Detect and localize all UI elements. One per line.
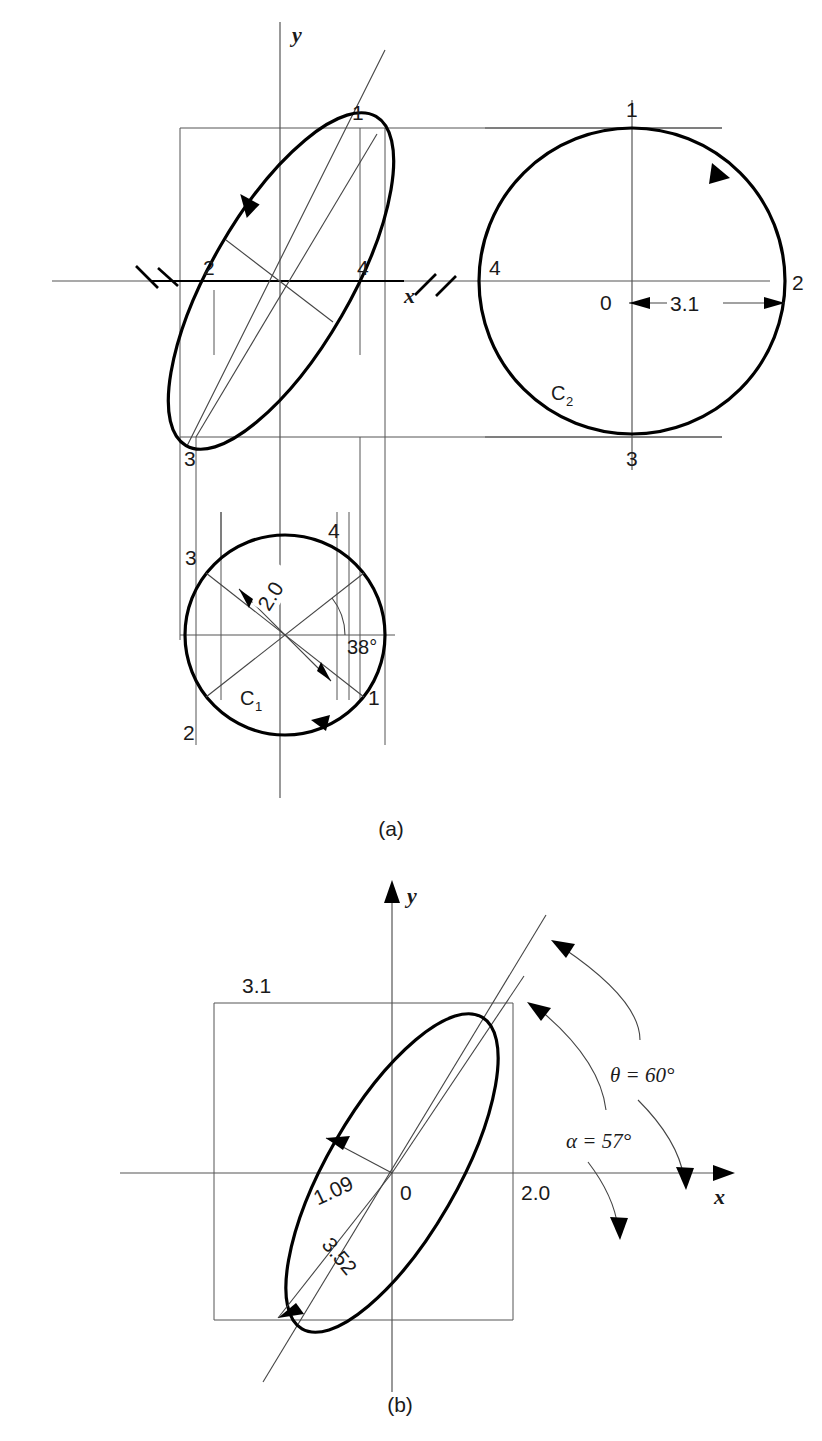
ellipse-b — [246, 915, 546, 1382]
svg-text:C: C — [240, 687, 254, 709]
c2-dimension-3.1: 3.1 — [629, 291, 785, 315]
c1-name-label: C 1 — [240, 687, 262, 714]
circle-c1 — [180, 535, 395, 735]
ellipse-direction-arrow-a — [232, 194, 260, 220]
c2-dimension-text: 3.1 — [670, 292, 699, 315]
circle-c2 — [479, 100, 785, 470]
circle-c2-direction-arrow — [709, 163, 730, 184]
box-right-dimension-b: 2.0 — [521, 1181, 550, 1204]
c2-point-3: 3 — [626, 447, 638, 470]
svg-text:2: 2 — [566, 394, 573, 409]
c2-point-4: 4 — [489, 256, 501, 279]
panel-a: x y 1 2 3 4 1 2 3 — [52, 22, 804, 840]
svg-text:1: 1 — [255, 699, 262, 714]
y-axis-label-a: y — [289, 22, 302, 47]
box-top-dimension-b: 3.1 — [242, 974, 271, 997]
caption-b: (b) — [387, 1393, 413, 1416]
panel-b: x y 0 3.1 2.0 1.09 — [120, 880, 735, 1416]
ellipse-a — [125, 50, 436, 481]
figure-canvas: x y 1 2 3 4 1 2 3 — [0, 0, 822, 1441]
ellipse-point-2-a: 2 — [203, 256, 215, 279]
svg-text:C: C — [551, 382, 565, 404]
x-axis-b — [120, 1165, 735, 1181]
y-axis-b — [384, 880, 400, 1392]
c1-point-3: 3 — [185, 546, 197, 569]
technical-drawing-svg: x y 1 2 3 4 1 2 3 — [0, 0, 822, 1441]
c1-point-2: 2 — [183, 721, 195, 744]
x-axis-label-a: x — [403, 283, 415, 308]
angle-theta-label-b: θ = 60° — [610, 1063, 675, 1087]
c2-point-1: 1 — [626, 98, 638, 121]
y-axis-label-b: y — [404, 883, 417, 908]
angle-alpha-label-b: α = 57° — [566, 1129, 632, 1153]
c2-point-2: 2 — [792, 271, 804, 294]
angle-alpha-b — [527, 1002, 628, 1240]
bounding-box-b — [214, 1003, 513, 1320]
c1-point-1: 1 — [368, 686, 380, 709]
c1-point-4: 4 — [328, 519, 340, 542]
alpha-symbol: α = 57° — [566, 1129, 632, 1153]
svg-text:3.52: 3.52 — [318, 1233, 362, 1279]
x-axis-label-b: x — [713, 1184, 725, 1209]
ellipse-point-3-a: 3 — [184, 447, 196, 470]
c2-origin-label: 0 — [600, 291, 612, 314]
c1-angle-label: 38° — [347, 636, 377, 658]
ellipse-point-4-a: 4 — [357, 256, 369, 279]
caption-a: (a) — [378, 817, 404, 840]
semi-major-dimension-b: 3.52 — [318, 1233, 362, 1279]
theta-symbol: θ = 60° — [610, 1063, 675, 1087]
origin-label-b: 0 — [400, 1181, 412, 1204]
ellipse-point-1-a: 1 — [352, 101, 364, 124]
c2-name-label: C 2 — [551, 382, 573, 409]
